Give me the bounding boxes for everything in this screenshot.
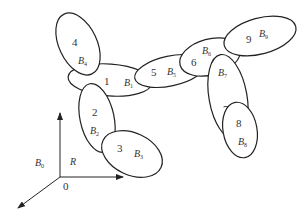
frame-label-R: R <box>69 156 76 167</box>
body-number: 4 <box>72 36 78 48</box>
bodies-group: 1B12B23B34B45B56B67B78B89B9 <box>47 6 301 186</box>
origin-label: 0 <box>63 180 69 192</box>
body-number: 1 <box>104 75 110 87</box>
diagram-svg: 1B12B23B34B45B56B67B78B89B9 0 R B0 <box>0 0 305 221</box>
body-number: 8 <box>236 117 242 129</box>
body-number: 6 <box>191 56 197 68</box>
body-number: 5 <box>151 66 157 78</box>
base-body-label: B0 <box>35 157 44 169</box>
body-number: 9 <box>246 33 252 45</box>
body-number: 3 <box>117 142 123 154</box>
multibody-diagram: 1B12B23B34B45B56B67B78B89B9 0 R B0 <box>0 0 305 221</box>
body-number: 2 <box>92 106 98 118</box>
z-axis-arrow <box>18 177 60 208</box>
